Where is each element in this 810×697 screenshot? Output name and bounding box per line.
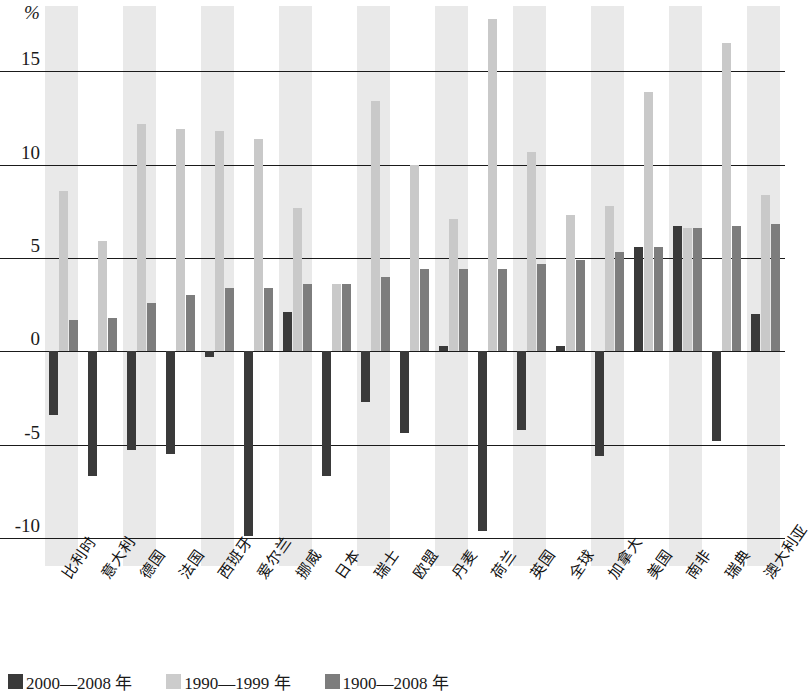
bar bbox=[683, 228, 692, 351]
bar bbox=[488, 19, 497, 351]
bar bbox=[361, 351, 370, 401]
y-axis-tick-label: -5 bbox=[0, 422, 40, 444]
bar bbox=[439, 346, 448, 352]
bar bbox=[478, 351, 487, 530]
bar bbox=[127, 351, 136, 450]
bar bbox=[283, 312, 292, 351]
bar bbox=[88, 351, 97, 476]
bar bbox=[498, 269, 507, 351]
bar bbox=[254, 139, 263, 352]
bar bbox=[371, 101, 380, 351]
chart-legend: 2000—2008 年1990—1999 年1900—2008 年 bbox=[8, 668, 785, 694]
bar bbox=[449, 219, 458, 352]
bar bbox=[712, 351, 721, 441]
y-axis-tick-label: -10 bbox=[0, 515, 40, 537]
bar bbox=[186, 295, 195, 351]
bar bbox=[673, 226, 682, 351]
bar bbox=[615, 252, 624, 351]
bar bbox=[59, 191, 68, 352]
bar bbox=[381, 277, 390, 352]
gridline bbox=[0, 445, 785, 446]
legend-label: 1990—1999 年 bbox=[184, 669, 290, 694]
bar bbox=[69, 320, 78, 352]
bar bbox=[732, 226, 741, 351]
bar bbox=[654, 247, 663, 352]
bar bbox=[517, 351, 526, 429]
bar bbox=[322, 351, 331, 476]
zero-axis-line bbox=[0, 351, 785, 352]
bar bbox=[332, 284, 341, 351]
bar bbox=[644, 92, 653, 351]
bar bbox=[49, 351, 58, 414]
legend-swatch-icon bbox=[325, 674, 340, 689]
y-axis-tick-label: 10 bbox=[0, 142, 40, 164]
bar bbox=[303, 284, 312, 351]
gridline bbox=[0, 165, 785, 166]
legend-item[interactable]: 2000—2008 年 bbox=[8, 669, 132, 694]
y-axis-unit-label: % bbox=[24, 2, 40, 24]
bar bbox=[459, 269, 468, 351]
bar bbox=[722, 43, 731, 351]
bar bbox=[108, 318, 117, 352]
bar bbox=[605, 206, 614, 352]
bar bbox=[410, 165, 419, 352]
bar bbox=[693, 228, 702, 351]
y-axis-tick-label: 5 bbox=[0, 235, 40, 257]
bar bbox=[225, 288, 234, 351]
bar bbox=[147, 303, 156, 352]
legend-label: 1900—2008 年 bbox=[343, 669, 449, 694]
bar bbox=[244, 351, 253, 536]
bar bbox=[420, 269, 429, 351]
plot-inner: 151050-5-10 bbox=[44, 6, 785, 566]
bar bbox=[537, 264, 546, 352]
legend-swatch-icon bbox=[166, 674, 181, 689]
legend-item[interactable]: 1900—2008 年 bbox=[325, 669, 449, 694]
bar bbox=[137, 124, 146, 352]
y-axis-tick-label: 0 bbox=[0, 328, 40, 350]
bar bbox=[527, 152, 536, 352]
x-axis-category-labels: 比利时意大利德国法国西班牙爱尔兰挪威日本瑞士欧盟丹麦荷兰英国全球加拿大美国南非瑞… bbox=[0, 566, 785, 664]
gridline bbox=[0, 258, 785, 259]
bar bbox=[761, 195, 770, 352]
bar bbox=[556, 346, 565, 352]
bar bbox=[342, 284, 351, 351]
bar bbox=[176, 129, 185, 351]
legend-swatch-icon bbox=[8, 674, 23, 689]
bar bbox=[634, 247, 643, 352]
bar bbox=[566, 215, 575, 351]
bar bbox=[166, 351, 175, 454]
bar bbox=[400, 351, 409, 433]
bar bbox=[771, 224, 780, 351]
bar bbox=[576, 260, 585, 351]
bar bbox=[595, 351, 604, 456]
legend-item[interactable]: 1990—1999 年 bbox=[166, 669, 290, 694]
bar bbox=[293, 208, 302, 352]
bar bbox=[751, 314, 760, 351]
legend-label: 2000—2008 年 bbox=[26, 669, 132, 694]
bar bbox=[205, 351, 214, 357]
gridline bbox=[0, 71, 785, 72]
bar bbox=[264, 288, 273, 351]
bar bbox=[215, 131, 224, 351]
plot-area: 151050-5-10 bbox=[44, 6, 785, 566]
bar bbox=[98, 241, 107, 351]
y-axis-tick-label: 15 bbox=[0, 48, 40, 70]
